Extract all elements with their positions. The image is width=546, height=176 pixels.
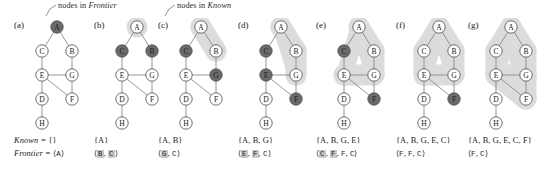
search-algorithm-figure: nodes in Frontier nodes in Known (a)ABCD…	[0, 0, 546, 176]
node-F: F	[66, 93, 78, 105]
node-H: H	[180, 117, 192, 129]
node-E: E	[180, 69, 192, 81]
node-label-B: B	[523, 47, 528, 56]
node-G: G	[520, 69, 532, 81]
node-B: B	[448, 45, 460, 57]
node-C: C	[418, 45, 430, 57]
node-D: D	[36, 93, 48, 105]
node-H: H	[260, 117, 272, 129]
node-label-C: C	[493, 47, 498, 56]
node-label-G: G	[371, 71, 377, 80]
frontier-close-bracket: ⟩	[115, 149, 118, 158]
node-D: D	[490, 93, 502, 105]
node-G: G	[66, 69, 78, 81]
frontier-close-bracket: ⟩	[268, 149, 271, 158]
node-B: B	[146, 45, 158, 57]
frontier-close-bracket: ⟩	[61, 149, 64, 158]
node-label-D: D	[183, 95, 189, 104]
node-label-H: H	[39, 119, 45, 128]
node-label-F: F	[524, 95, 528, 104]
node-label-F: F	[150, 95, 154, 104]
node-label-F: F	[70, 95, 74, 104]
node-F: F	[520, 93, 532, 105]
node-G: G	[448, 69, 460, 81]
node-B: B	[290, 45, 302, 57]
node-label-F: F	[294, 95, 298, 104]
node-label-G: G	[523, 71, 529, 80]
node-label-F: F	[372, 95, 376, 104]
frontier-close-bracket: ⟩	[422, 149, 425, 158]
node-C: C	[36, 45, 48, 57]
known-caption-f: {A, B, G, E, C}	[396, 136, 451, 145]
panel-f: (f)ABCDEFGH{A, B, G, E, C}⟨F, F, C⟩	[396, 18, 476, 176]
node-A: A	[51, 21, 63, 33]
node-label-B: B	[69, 47, 74, 56]
known-caption-e: {A, B, G, E}	[316, 136, 361, 145]
node-label-H: H	[263, 119, 269, 128]
node-C: C	[116, 45, 128, 57]
node-label-F: F	[214, 95, 218, 104]
node-label-G: G	[149, 71, 155, 80]
node-label-B: B	[371, 47, 376, 56]
node-F: F	[210, 93, 222, 105]
known-caption-a: Known = {}	[14, 136, 57, 145]
node-label-E: E	[342, 71, 347, 80]
node-label-E: E	[184, 71, 189, 80]
node-C: C	[338, 45, 350, 57]
panel-label-e: (e)	[316, 20, 326, 30]
known-set-value-a: {}	[48, 136, 56, 145]
node-label-C: C	[183, 47, 188, 56]
graph-e: ABCDEFGH	[326, 18, 394, 136]
node-A: A	[433, 21, 445, 33]
node-label-G: G	[293, 71, 299, 80]
node-F: F	[146, 93, 158, 105]
node-label-D: D	[119, 95, 125, 104]
node-A: A	[275, 21, 287, 33]
node-C: C	[180, 45, 192, 57]
known-caption-g: {A, B, G, E, C, F}	[468, 136, 532, 145]
node-label-D: D	[493, 95, 499, 104]
node-G: G	[210, 69, 222, 81]
node-F: F	[448, 93, 460, 105]
frontier-caption-d: ⟨E, F, C⟩	[238, 148, 271, 158]
node-A: A	[195, 21, 207, 33]
node-label-B: B	[293, 47, 298, 56]
node-label-H: H	[183, 119, 189, 128]
graph-f: ABCDEFGH	[406, 18, 474, 136]
node-E: E	[490, 69, 502, 81]
node-label-B: B	[149, 47, 154, 56]
graph-a: ABCDEFGH	[24, 18, 92, 136]
node-label-B: B	[213, 47, 218, 56]
node-D: D	[116, 93, 128, 105]
known-caption-prefix: Known =	[14, 136, 48, 145]
known-caption-d: {A, B, G}	[238, 136, 273, 145]
node-E: E	[418, 69, 430, 81]
panel-label-g: (g)	[468, 20, 479, 30]
node-label-C: C	[341, 47, 346, 56]
panel-c: (c)ABCDEFGH{A, B}⟨G, C⟩	[158, 18, 238, 176]
node-F: F	[368, 93, 380, 105]
node-C: C	[490, 45, 502, 57]
node-label-D: D	[39, 95, 45, 104]
node-D: D	[418, 93, 430, 105]
frontier-caption-f: ⟨F, F, C⟩	[396, 148, 425, 158]
node-E: E	[116, 69, 128, 81]
node-G: G	[290, 69, 302, 81]
node-label-B: B	[451, 47, 456, 56]
node-label-D: D	[341, 95, 347, 104]
node-label-H: H	[341, 119, 347, 128]
node-label-E: E	[120, 71, 125, 80]
node-label-A: A	[198, 23, 204, 32]
node-label-E: E	[40, 71, 45, 80]
node-label-H: H	[119, 119, 125, 128]
node-F: F	[290, 93, 302, 105]
frontier-close-bracket: ⟩	[485, 149, 488, 158]
node-label-A: A	[356, 23, 362, 32]
known-set-value-g: {A, B, G, E, C, F}	[468, 136, 532, 145]
node-label-F: F	[452, 95, 456, 104]
node-H: H	[418, 117, 430, 129]
known-set-value-b: {A}	[94, 136, 108, 145]
node-H: H	[490, 117, 502, 129]
known-set-value-d: {A, B, G}	[238, 136, 273, 145]
known-caption-b: {A}	[94, 136, 108, 145]
